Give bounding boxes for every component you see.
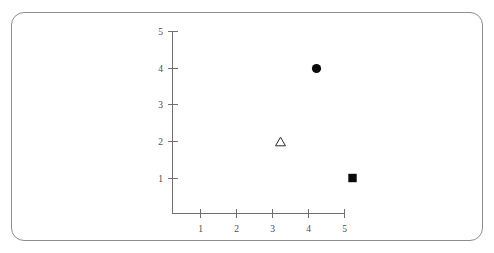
- y-axis-tick-labels: 5 4 3 2 1: [158, 27, 163, 184]
- filled-circle-marker: [312, 64, 321, 73]
- y-tick-label-1: 1: [158, 174, 163, 184]
- y-tick-label-4: 4: [158, 64, 163, 74]
- x-tick-label-4: 4: [306, 224, 311, 234]
- plot-canvas: 5 4 3 2 1 1 2 3 4 5: [0, 0, 494, 253]
- y-tick-label-5: 5: [158, 27, 163, 37]
- x-tick-label-5: 5: [342, 224, 347, 234]
- x-tick-label-2: 2: [234, 224, 239, 234]
- y-tick-label-3: 3: [158, 100, 163, 110]
- data-markers: [276, 64, 357, 182]
- y-tick-label-2: 2: [158, 137, 163, 147]
- x-tick-label-3: 3: [270, 224, 275, 234]
- x-tick-label-1: 1: [198, 224, 203, 234]
- scatter-plot: 5 4 3 2 1 1 2 3 4 5: [0, 0, 494, 253]
- x-axis-tick-labels: 1 2 3 4 5: [198, 224, 347, 234]
- filled-square-marker: [348, 174, 356, 182]
- open-triangle-marker: [276, 137, 286, 146]
